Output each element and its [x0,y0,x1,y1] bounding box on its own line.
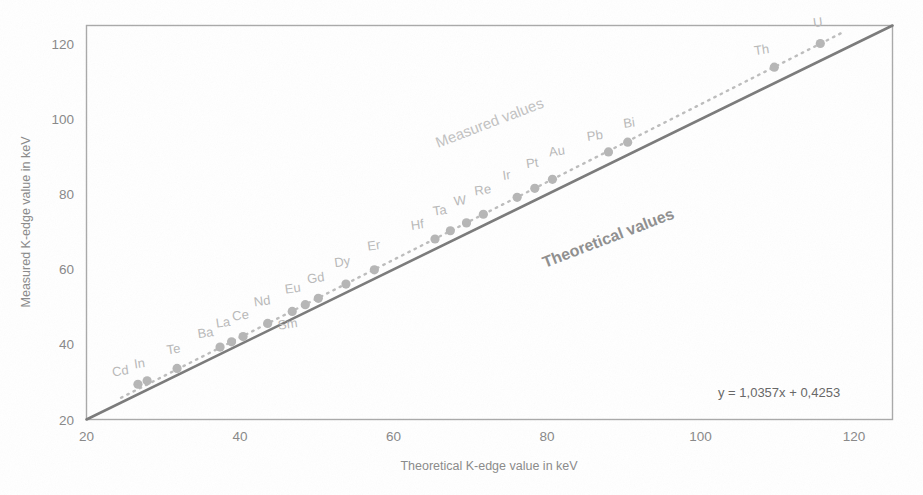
scan-grain-overlay [0,0,923,495]
kedge-calibration-figure: 20406080100120 20406080100120 Theoretica… [0,0,923,495]
scatter-plot-svg: 20406080100120 20406080100120 Theoretica… [0,0,923,495]
